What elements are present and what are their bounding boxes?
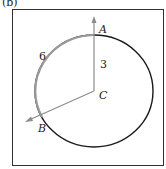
arrowhead-a-icon xyxy=(92,16,97,23)
circle-arc-diagram: (b) A 3 C B 6 xyxy=(0,0,166,169)
point-c-label: C xyxy=(99,89,108,102)
part-label: (b) xyxy=(2,0,18,9)
arrowhead-b-icon xyxy=(25,117,33,123)
vector-cb xyxy=(29,91,94,120)
point-a-label: A xyxy=(98,23,107,36)
radius-label: 3 xyxy=(100,58,107,71)
arc-length-label: 6 xyxy=(39,50,46,63)
point-b-label: B xyxy=(37,122,46,135)
